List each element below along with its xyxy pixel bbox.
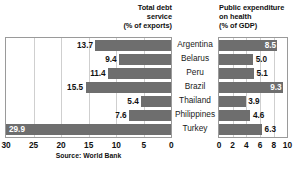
table-row: 13.7 (6, 40, 171, 51)
bar-right-1 (219, 54, 253, 65)
table-row: 5.1 (219, 68, 287, 79)
country-label-thailand: Thailand (172, 95, 218, 106)
country-label-argentina: Argentina (172, 39, 218, 50)
axis-tick-label: 0 (217, 140, 222, 150)
bar-value-label: 9.3 (266, 82, 282, 93)
country-label-brazil: Brazil (172, 81, 218, 92)
bar-value-label: 5.4 (99, 96, 139, 107)
left-chart-plot-area: 13.79.411.415.55.47.629.9 (5, 37, 172, 138)
source-note: Source: World Bank (5, 152, 172, 159)
axis-tick-label: 6 (258, 140, 263, 150)
axis-tick-label: 30 (1, 140, 10, 150)
table-row: 6.3 (219, 124, 287, 135)
table-row: 9.3 (219, 82, 287, 93)
bar-value-label: 29.9 (9, 124, 49, 135)
bar-left-0 (95, 40, 171, 51)
bar-value-label: 8.5 (260, 40, 276, 51)
country-label-belarus: Belarus (172, 53, 218, 64)
table-row: 29.9 (6, 124, 171, 135)
axis-tick-label: 20 (57, 140, 66, 150)
right-chart-title: Public expenditure on health (% of GDP) (219, 3, 295, 31)
bar-right-5 (219, 110, 250, 121)
right-chart-plot-area: 8.55.05.19.33.94.66.3 (218, 37, 288, 138)
bar-value-label: 3.9 (248, 96, 272, 107)
country-label-turkey: Turkey (172, 123, 218, 134)
chart-figure: Total debt service (% of exports) Public… (0, 0, 295, 176)
bar-value-label: 15.5 (43, 82, 83, 93)
bar-left-3 (86, 82, 171, 93)
bar-left-4 (141, 96, 171, 107)
table-row: 4.6 (219, 110, 287, 121)
bar-value-label: 5.0 (256, 54, 280, 65)
country-label-column: ArgentinaBelarusPeruBrazilThailandPhilip… (172, 37, 218, 138)
country-label-philippines: Philippines (172, 109, 218, 120)
axis-tick-label: 10 (112, 140, 121, 150)
bar-left-5 (129, 110, 171, 121)
bar-value-label: 11.4 (66, 68, 106, 79)
right-x-axis: 0246810 (218, 140, 288, 150)
table-row: 15.5 (6, 82, 171, 93)
left-x-axis: 302520151050 (5, 140, 172, 150)
bar-value-label: 9.4 (77, 54, 117, 65)
bar-value-label: 5.1 (256, 68, 280, 79)
table-row: 11.4 (6, 68, 171, 79)
axis-tick-label: 25 (29, 140, 38, 150)
country-label-peru: Peru (172, 67, 218, 78)
axis-tick-label: 8 (271, 140, 276, 150)
right-bar-rows: 8.55.05.19.33.94.66.3 (219, 38, 287, 137)
bar-right-4 (219, 96, 246, 107)
axis-tick-label: 5 (142, 140, 147, 150)
bar-right-2 (219, 68, 254, 79)
left-bar-rows: 13.79.411.415.55.47.629.9 (6, 38, 171, 137)
axis-tick-label: 15 (84, 140, 93, 150)
table-row: 7.6 (6, 110, 171, 121)
bar-left-2 (108, 68, 171, 79)
axis-tick-label: 4 (244, 140, 249, 150)
table-row: 5.0 (219, 54, 287, 65)
table-row: 8.5 (219, 40, 287, 51)
bar-left-1 (119, 54, 171, 65)
table-row: 3.9 (219, 96, 287, 107)
table-row: 5.4 (6, 96, 171, 107)
bar-value-label: 13.7 (53, 40, 93, 51)
axis-tick-label: 10 (283, 140, 292, 150)
bar-value-label: 7.6 (87, 110, 127, 121)
left-chart-title: Total debt service (% of exports) (96, 3, 172, 31)
table-row: 9.4 (6, 54, 171, 65)
axis-tick-label: 0 (169, 140, 174, 150)
bar-value-label: 4.6 (253, 110, 277, 121)
axis-tick-label: 2 (230, 140, 235, 150)
bar-value-label: 6.3 (265, 124, 289, 135)
bar-right-6 (219, 124, 262, 135)
